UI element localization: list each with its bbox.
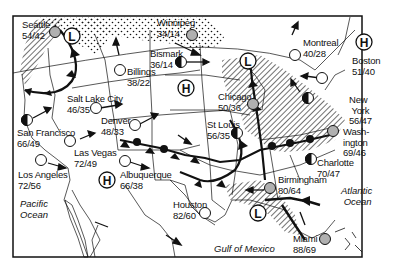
high-pressure-southwest-icon: H	[99, 172, 115, 188]
high-pressure-new-england-icon: H	[356, 34, 372, 50]
station-montreal	[290, 50, 301, 61]
label-atlantic-ocean: Atlantic Ocean	[341, 185, 372, 207]
station-new-york	[303, 93, 314, 104]
city-label-chicago: Chicago50/36	[218, 92, 251, 113]
svg-text:L: L	[254, 207, 261, 221]
city-label-albuquerque: Albuquerque66/38	[120, 170, 172, 191]
station-san-francisco	[22, 115, 33, 126]
station-charlotte	[306, 154, 317, 165]
label-gulf-of-mexico: Gulf of Mexico	[214, 243, 275, 254]
station-billings	[115, 65, 126, 76]
city-label-washington: Wash-ington69/46	[343, 127, 369, 159]
city-label-denver: Denver48/33	[101, 116, 130, 137]
city-label-seattle: Seattle54/42	[22, 20, 50, 41]
svg-text:L: L	[68, 30, 75, 44]
city-label-san-francisco: San Francisco66/49	[17, 128, 75, 149]
city-label-winnipeg: Winnipeg34/14	[157, 18, 195, 39]
station-denver	[130, 120, 141, 131]
svg-text:H: H	[103, 174, 112, 188]
station-washington	[328, 126, 339, 137]
city-label-birmingham: Birmingham80/64	[278, 175, 327, 196]
station-albuquerque	[120, 156, 131, 167]
city-label-new-york: New York56/47	[349, 95, 372, 127]
city-label-boston: Boston51/40	[352, 56, 380, 77]
city-label-salt-lake-city: Salt Lake City46/35	[67, 94, 123, 115]
station-miami	[320, 234, 331, 245]
high-pressure-plains-icon: H	[178, 80, 194, 96]
low-pressure-gulf-icon: L	[250, 205, 266, 221]
city-label-las-vegas: Las Vegas72/49	[74, 148, 117, 169]
city-label-los-angeles: Los Angeles72/56	[18, 170, 68, 191]
low-pressure-pacific-nw-icon: L	[64, 28, 80, 44]
label-pacific-ocean: PacificOcean	[20, 198, 48, 220]
low-pressure-great-lakes-icon: L	[240, 53, 256, 69]
svg-text:H: H	[360, 36, 369, 50]
city-label-miami: Miami88/69	[293, 234, 317, 255]
weather-map: L L L H H H Seattle54/42 Winnipeg34/14 B…	[0, 0, 397, 273]
station-seattle	[50, 27, 61, 38]
city-label-montreal: Montreal40/28	[303, 38, 338, 59]
svg-text:H: H	[182, 82, 191, 96]
svg-text:L: L	[244, 55, 251, 69]
station-boston	[317, 73, 328, 84]
city-label-billings: Billings38/22	[127, 67, 156, 88]
city-label-houston: Houston82/60	[173, 200, 207, 221]
station-los-angeles	[36, 155, 47, 166]
city-label-st-louis: St Louis56/35	[207, 120, 240, 141]
station-birmingham	[265, 183, 276, 194]
